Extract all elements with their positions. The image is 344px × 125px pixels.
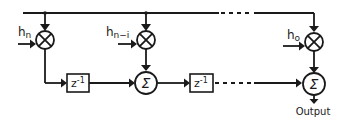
output-label: Output — [296, 106, 331, 117]
coefficient-label-hn-i: hn−i — [106, 25, 129, 40]
input-bus — [23, 11, 314, 15]
tap-h0: ho Σ Output — [283, 13, 330, 117]
fir-filter-diagram: hn z-1 hn−i Σ z-1 — [0, 0, 344, 125]
svg-text:Σ: Σ — [310, 76, 319, 92]
tap-hn: hn — [18, 13, 67, 88]
coefficient-label-h0: ho — [287, 28, 301, 43]
delay-block-2: z-1 — [190, 74, 302, 92]
tap-hn-i: hn−i Σ — [106, 13, 190, 94]
coefficient-label-hn: hn — [18, 25, 31, 40]
delay-block-1: z-1 — [67, 74, 135, 92]
svg-text:Σ: Σ — [142, 75, 151, 91]
